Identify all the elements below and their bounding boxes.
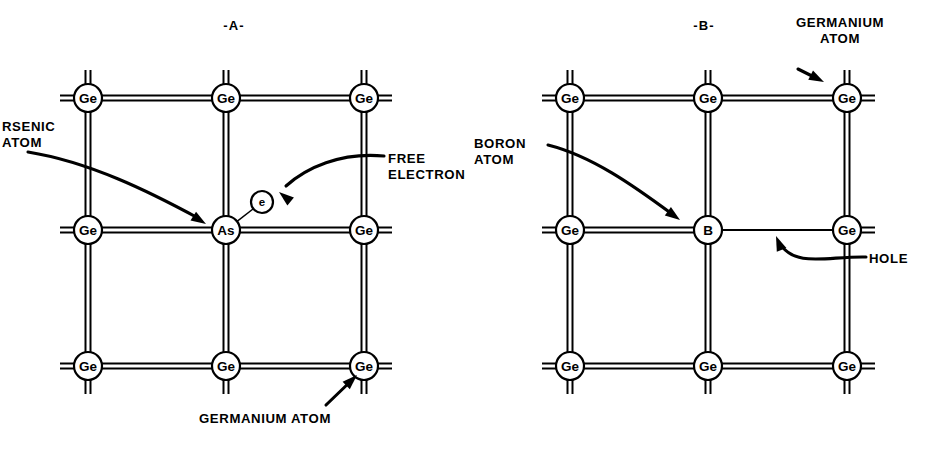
callout-germanium-atom[interactable]: GERMANIUMATOM [796,15,884,82]
atom-label: Ge [217,91,236,106]
atom-label: Ge [355,359,374,374]
atom-node-germanium[interactable]: Ge [212,352,240,380]
callout-label: GERMANIUM ATOM [199,411,331,426]
callout-line: ATOM [474,152,514,167]
atom-label: Ge [79,359,98,374]
callouts: RSENICATOMFREEELECTRONGERMANIUM ATOM [2,119,465,426]
atom-node-boron[interactable]: B [694,216,722,244]
atom-node-germanium[interactable]: Ge [350,352,378,380]
atom-label: Ge [355,91,374,106]
atom-label: As [217,223,234,238]
atom-label: Ge [355,223,374,238]
atom-label: Ge [79,223,98,238]
atom-label: B [703,223,713,238]
free-electron-node[interactable]: e [251,191,273,213]
callout-leader-line [28,152,198,218]
callout-line: RSENIC [2,119,55,134]
semiconductor-doping-figure: GeGeGeGeAsGeGeGeGee-A-RSENICATOMFREEELEC… [0,0,946,455]
atom-label: Ge [699,359,718,374]
atom-node-arsenic[interactable]: As [212,216,240,244]
atom-node-germanium[interactable]: Ge [212,84,240,112]
atom-label: Ge [561,91,580,106]
callout-line: ATOM [2,135,42,150]
atom-node-germanium[interactable]: Ge [74,84,102,112]
callout-label: BORONATOM [474,136,526,167]
panel-title: -B- [693,18,715,33]
callout-leader-line [780,244,866,259]
callout-arrowhead [279,192,294,205]
callout-label: RSENICATOM [2,119,55,150]
callout-label: GERMANIUMATOM [796,15,884,46]
atom-label: Ge [79,91,98,106]
atom-node-germanium[interactable]: Ge [350,84,378,112]
atom-node-germanium[interactable]: Ge [74,352,102,380]
atom-node-germanium[interactable]: Ge [350,216,378,244]
callout-line: BORON [474,136,526,151]
panel-title: -A- [223,18,245,33]
atom-label: Ge [217,359,236,374]
callout-label: HOLE [869,251,908,266]
atom-label: Ge [838,223,857,238]
atom-label: Ge [561,223,580,238]
callout-line: ELECTRON [388,167,465,182]
callout-leader-line [286,155,384,186]
atom-node-germanium[interactable]: Ge [556,216,584,244]
atom-label: Ge [699,91,718,106]
electron-tether [237,209,253,222]
callout-line: FREE [388,151,426,166]
atom-node-germanium[interactable]: Ge [694,84,722,112]
electron-label: e [259,196,265,208]
atom-node-germanium[interactable]: Ge [694,352,722,380]
callout-boron-atom[interactable]: BORONATOM [474,136,680,220]
atom-label: Ge [838,91,857,106]
atom-node-germanium[interactable]: Ge [833,352,861,380]
callout-line: ATOM [820,31,860,46]
atom-node-germanium[interactable]: Ge [833,216,861,244]
panel-b: GeGeGeGeBGeGeGeGe-B-GERMANIUMATOMBORONAT… [474,15,908,394]
callout-line: GERMANIUM ATOM [199,411,331,426]
panel-a: GeGeGeGeAsGeGeGeGee-A-RSENICATOMFREEELEC… [2,18,465,426]
atom-node-germanium[interactable]: Ge [556,84,584,112]
callout-arrowhead [808,71,824,82]
callout-line: HOLE [869,251,908,266]
callout-free-electron[interactable]: FREEELECTRON [279,151,465,205]
atom-node-germanium[interactable]: Ge [833,84,861,112]
lattice-diagram-canvas: GeGeGeGeAsGeGeGeGee-A-RSENICATOMFREEELEC… [0,0,946,455]
callout-line: GERMANIUM [796,15,884,30]
callout-label: FREEELECTRON [388,151,465,182]
atom-label: Ge [838,359,857,374]
atom-node-germanium[interactable]: Ge [74,216,102,244]
callout-arsenic-atom[interactable]: RSENICATOM [2,119,206,224]
atom-label: Ge [561,359,580,374]
atom-node-germanium[interactable]: Ge [556,352,584,380]
